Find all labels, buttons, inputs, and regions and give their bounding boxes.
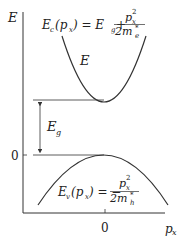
- y-axis-label: E: [7, 10, 18, 25]
- conduction-band-label: E: [79, 53, 90, 68]
- svg-text:g: g: [56, 128, 61, 137]
- conduction-band-curve: [62, 36, 146, 102]
- gap-label: E g: [46, 119, 61, 137]
- x-tick-label: 0: [101, 221, 109, 235]
- svg-text:2m: 2m: [114, 25, 132, 38]
- svg-text:v: v: [66, 193, 70, 201]
- svg-text:2m: 2m: [109, 192, 127, 205]
- x-axis-label: p x: [165, 222, 177, 237]
- svg-text:*: *: [135, 24, 139, 32]
- svg-text:c: c: [50, 26, 54, 34]
- svg-text:2: 2: [126, 174, 130, 182]
- conduction-band-formula: E c (p x ) = E g + p x 2 2m e *: [41, 8, 145, 40]
- valence-band-formula: E v (p x ) = − p x 2 2m h *: [57, 174, 139, 207]
- svg-text:p: p: [125, 11, 132, 24]
- svg-text:(p: (p: [55, 18, 68, 32]
- svg-text:*: *: [130, 191, 134, 199]
- svg-text:p: p: [119, 177, 126, 190]
- svg-text:) = E: ) = E: [72, 18, 104, 32]
- svg-text:e: e: [135, 32, 139, 40]
- y-tick-label: 0: [11, 149, 19, 163]
- svg-text:(p: (p: [71, 185, 84, 199]
- svg-text:2: 2: [132, 8, 136, 16]
- band-diagram: E 0 0 p x E E g E c (p x ) = E g + p x 2…: [0, 0, 186, 244]
- svg-text:h: h: [130, 199, 135, 207]
- svg-text:x: x: [172, 228, 177, 237]
